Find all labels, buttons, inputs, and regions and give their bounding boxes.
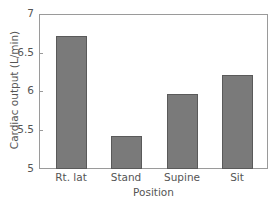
x-axis-label: Position [39,186,268,198]
y-tick-label: 7 [6,7,34,19]
y-tick-mark [39,91,43,92]
y-tick-label: 6.5 [6,46,34,58]
x-tick-label: Supine [152,171,212,183]
bar-rt-lat [56,36,87,169]
bar-supine [167,94,198,169]
bar-sit [222,75,253,169]
x-tick-label: Stand [96,171,156,183]
y-tick-label: 5.5 [6,123,34,135]
y-tick-mark [39,53,43,54]
y-tick-label: 6 [6,84,34,96]
y-tick-mark [39,130,43,131]
x-tick-label: Rt. lat [41,171,101,183]
y-tick-label: 5 [6,162,34,174]
x-tick-label: Sit [207,171,267,183]
bar-stand [111,136,142,169]
